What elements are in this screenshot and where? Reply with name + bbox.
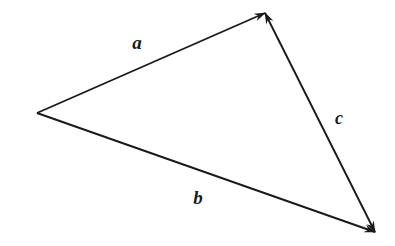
vector-label-c: c [335, 109, 343, 127]
vector-diagram: a b c [0, 0, 395, 246]
vector-lines-group [37, 13, 375, 232]
vector-arrow-a [37, 13, 265, 113]
vector-label-a: a [132, 33, 142, 52]
vector-label-b: b [193, 188, 203, 207]
